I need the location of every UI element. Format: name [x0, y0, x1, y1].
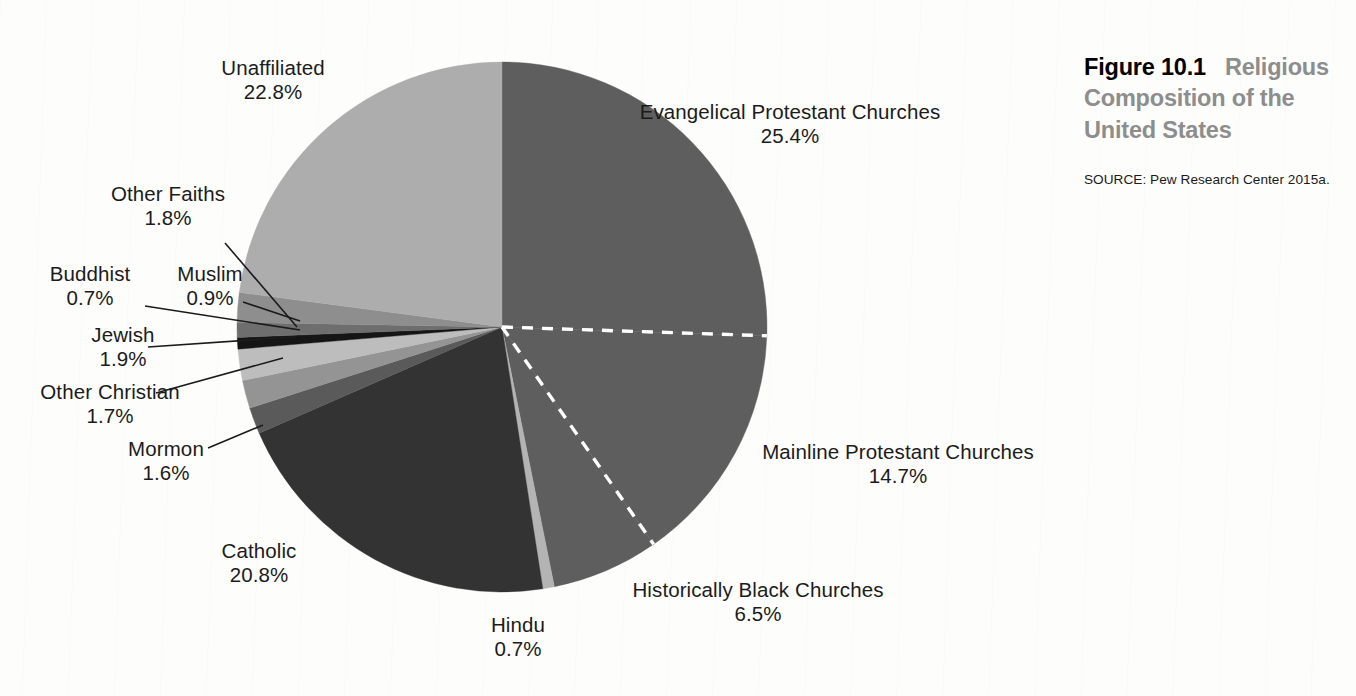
slice-label-muslim: Muslim 0.9% — [155, 262, 265, 310]
slice-label-catholic-pct: 20.8% — [179, 563, 339, 587]
slice-label-buddhist-pct: 0.7% — [25, 286, 155, 310]
slice-label-catholic: Catholic 20.8% — [179, 539, 339, 587]
slice-label-unaffiliated-pct: 22.8% — [173, 80, 373, 104]
slice-label-historically-black-churches: Historically Black Churches 6.5% — [598, 578, 918, 626]
figure-title-block: Figure 10.1 Religious Composition of the… — [1084, 52, 1346, 187]
slice-label-other-christian: Other Christian 1.7% — [10, 380, 210, 428]
slice-label-hindu-pct: 0.7% — [448, 637, 588, 661]
slice-label-hindu: Hindu 0.7% — [448, 613, 588, 661]
slice-label-jewish-pct: 1.9% — [58, 347, 188, 371]
slice-label-mainline-protestant-churches: Mainline Protestant Churches 14.7% — [738, 440, 1058, 488]
slice-label-mainline-protestant-churches-name: Mainline Protestant Churches — [762, 440, 1034, 463]
slice-label-catholic-name: Catholic — [222, 539, 297, 562]
slice-label-evangelical-protestant-churches: Evangelical Protestant Churches 25.4% — [615, 100, 965, 148]
figure-title: Figure 10.1 Religious Composition of the… — [1084, 52, 1346, 146]
slice-label-other-christian-name: Other Christian — [40, 380, 179, 403]
slice-label-mainline-protestant-churches-pct: 14.7% — [738, 464, 1058, 488]
slice-label-historically-black-churches-name: Historically Black Churches — [632, 578, 883, 601]
slice-label-unaffiliated: Unaffiliated 22.8% — [173, 56, 373, 104]
slice-label-historically-black-churches-pct: 6.5% — [598, 602, 918, 626]
slice-label-jewish: Jewish 1.9% — [58, 323, 188, 371]
slice-label-evangelical-protestant-churches-pct: 25.4% — [615, 124, 965, 148]
slice-label-evangelical-protestant-churches-name: Evangelical Protestant Churches — [640, 100, 941, 123]
slice-label-muslim-name: Muslim — [177, 262, 243, 285]
slice-label-mormon-pct: 1.6% — [86, 461, 246, 485]
slice-label-buddhist-name: Buddhist — [50, 262, 131, 285]
slice-label-muslim-pct: 0.9% — [155, 286, 265, 310]
figure-pie-chart: Unaffiliated 22.8% Other Faiths 1.8% Bud… — [0, 0, 1356, 696]
slice-label-other-christian-pct: 1.7% — [10, 404, 210, 428]
slice-label-mormon: Mormon 1.6% — [86, 437, 246, 485]
slice-label-other-faiths-pct: 1.8% — [68, 206, 268, 230]
slice-label-hindu-name: Hindu — [491, 613, 545, 636]
slice-label-buddhist: Buddhist 0.7% — [25, 262, 155, 310]
slice-label-other-faiths-name: Other Faiths — [111, 182, 225, 205]
slice-label-mormon-name: Mormon — [128, 437, 204, 460]
slice-label-unaffiliated-name: Unaffiliated — [221, 56, 324, 79]
slice-label-jewish-name: Jewish — [91, 323, 154, 346]
slice-label-other-faiths: Other Faiths 1.8% — [68, 182, 268, 230]
figure-source: SOURCE: Pew Research Center 2015a. — [1084, 172, 1346, 187]
figure-number: Figure 10.1 — [1084, 54, 1206, 80]
